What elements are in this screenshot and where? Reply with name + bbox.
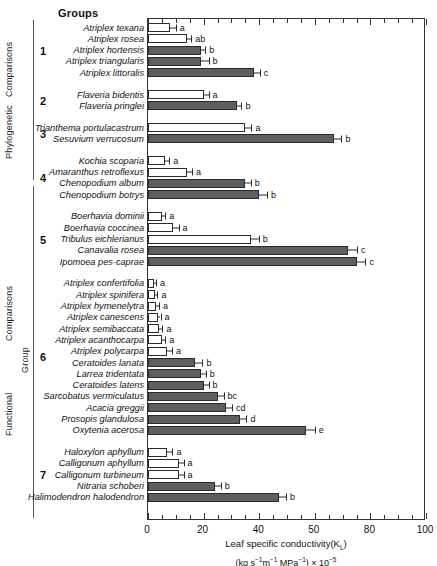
species-label: Atriplex hortensis — [74, 46, 144, 55]
side-label-functional: Functional — [4, 378, 16, 450]
bar-c3 — [148, 57, 201, 66]
significance-letter: cd — [236, 403, 246, 413]
significance-letter: a — [173, 156, 178, 166]
bracket-upper — [33, 20, 34, 180]
species-label: Chenopodium botrys — [59, 190, 144, 199]
error-bar-cap — [341, 135, 342, 142]
error-bar — [357, 261, 366, 262]
axis-tick-label: 100 — [417, 524, 434, 535]
error-bar-cap — [259, 236, 260, 243]
side-label-comparisons-2: Comparisons — [4, 272, 16, 354]
species-label: Ceratoides lanata — [72, 358, 144, 367]
species-label: Atriplex acanthocarpa — [55, 335, 144, 344]
significance-letter: a — [163, 301, 168, 311]
axis-tick — [273, 515, 274, 519]
species-label: Flaveria pringlei — [79, 101, 144, 110]
error-bar-cap — [365, 258, 366, 265]
error-bar-cap — [206, 370, 207, 377]
axis-tick — [315, 513, 316, 519]
significance-letter: c — [361, 245, 366, 255]
bar-c3 — [148, 493, 279, 502]
significance-letter: bc — [228, 391, 238, 401]
significance-letter: b — [225, 481, 230, 491]
group-number: 5 — [37, 234, 49, 246]
axis-tick — [329, 515, 330, 519]
chart-container: Groups Comparisons Phylogenetic Comparis… — [0, 0, 437, 566]
species-label: Atriplex rosea — [88, 34, 144, 43]
significance-letter: e — [319, 425, 324, 435]
significance-letter: a — [161, 290, 166, 300]
species-label: Nitraria schoberi — [77, 482, 144, 491]
group-number: 2 — [37, 95, 49, 107]
error-bar-cap — [162, 325, 163, 332]
axis-tick-label: 0 — [144, 524, 150, 535]
species-label: Boerhavia dominii — [71, 212, 144, 221]
bar-c4 — [148, 313, 158, 322]
error-bar-cap — [224, 393, 225, 400]
species-label: Atriplex littoralis — [80, 68, 144, 77]
axis-tick — [384, 515, 385, 519]
bar-row: bAtriplex triangularis — [148, 57, 426, 66]
significance-letter: a — [169, 335, 174, 345]
axis-tick — [190, 515, 191, 519]
error-bar-cap — [221, 483, 222, 490]
bar-c4 — [148, 223, 173, 232]
bar-c4 — [148, 23, 170, 32]
significance-letter: a — [169, 211, 174, 221]
side-label-phylogenetic: Phylogenetic — [4, 86, 16, 178]
bar-row: aFlaveria bidentis — [148, 90, 426, 99]
significance-letter: a — [165, 312, 170, 322]
error-bar-cap — [205, 47, 206, 54]
x-axis-title: Leaf specific conductivity(KL) (kg s−1m−… — [147, 538, 425, 566]
axis-tick — [412, 515, 413, 519]
species-label: Atriplex canescens — [67, 313, 144, 322]
axis-tick — [357, 515, 358, 519]
bar-row: cIpomoea pes-caprae — [148, 257, 426, 266]
bar-c3 — [148, 246, 348, 255]
significance-letter: b — [206, 358, 211, 368]
axis-tick — [426, 513, 427, 519]
species-label: Atriplex spinifera — [76, 290, 144, 299]
error-bar-cap — [209, 382, 210, 389]
bar-row: aAtriplex texana — [148, 23, 426, 32]
error-bar-cap — [176, 24, 177, 31]
error-bar-cap — [161, 314, 162, 321]
error-bar — [306, 430, 314, 431]
significance-letter: b — [209, 45, 214, 55]
error-bar-cap — [246, 416, 247, 423]
species-label: Kochia scoparia — [79, 156, 144, 165]
error-bar — [195, 362, 202, 363]
species-label: Amaranthus retroflexus — [49, 168, 144, 177]
axis-tick — [426, 19, 427, 25]
axis-tick — [343, 515, 344, 519]
bar-row: bChenopodium album — [148, 179, 426, 188]
x-axis-title-line1: Leaf specific conductivity(KL) — [147, 538, 425, 554]
bar-row: aHaloxylon aphyllum — [148, 448, 426, 457]
group-number: 7 — [37, 469, 49, 481]
species-label: Oxytenia acerosa — [73, 426, 145, 435]
significance-letter: b — [271, 190, 276, 200]
bar-c3 — [148, 68, 254, 77]
error-bar-cap — [184, 471, 185, 478]
species-label: Prosopis glandulosa — [61, 415, 144, 424]
bar-row: dProsopis glandulosa — [148, 415, 426, 424]
species-label: Larrea tridentata — [77, 369, 144, 378]
group-number: 4 — [37, 172, 49, 184]
significance-letter: a — [160, 278, 165, 288]
error-bar-cap — [241, 102, 242, 109]
bar-c3 — [148, 46, 201, 55]
bar-c4 — [148, 324, 159, 333]
species-label: Trianthema portulacastrum — [35, 123, 144, 132]
bar-c4 — [148, 335, 162, 344]
significance-letter: b — [245, 101, 250, 111]
bar-c4 — [148, 168, 187, 177]
bar-c3 — [148, 190, 259, 199]
bar-row: bSesuvium verrucosum — [148, 134, 426, 143]
species-label: Flaveria bidentis — [77, 90, 144, 99]
bar-c4 — [148, 470, 179, 479]
bar-row: bTribulus eichlerianus — [148, 235, 426, 244]
species-label: Atriplex polycarpa — [71, 347, 144, 356]
significance-letter: b — [263, 234, 268, 244]
bar-row: aAmaranthus retroflexus — [148, 168, 426, 177]
error-bar-cap — [192, 169, 193, 176]
